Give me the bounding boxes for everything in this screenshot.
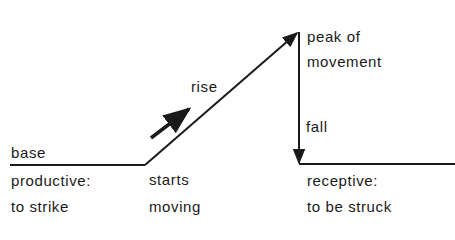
label-rise: rise xyxy=(191,78,218,95)
label-base: base xyxy=(11,144,46,161)
label-fall: fall xyxy=(306,118,328,135)
rise-direction-arrow xyxy=(151,109,189,138)
label-to-strike: to strike xyxy=(11,198,69,215)
label-to-be-struck: to be struck xyxy=(307,198,392,215)
label-productive: productive: xyxy=(11,172,91,189)
label-receptive: receptive: xyxy=(307,172,378,189)
label-moving: moving xyxy=(149,198,201,215)
label-movement: movement xyxy=(307,53,382,70)
label-peak-of: peak of xyxy=(307,28,360,45)
label-starts: starts xyxy=(149,171,189,188)
rise-line xyxy=(145,33,297,165)
